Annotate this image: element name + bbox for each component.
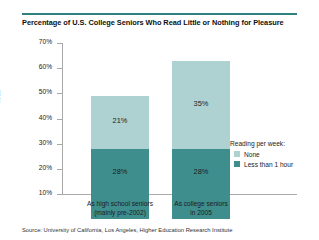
- y-tick-mark: [57, 43, 62, 44]
- source-note: Source: University of California, Los An…: [22, 227, 232, 233]
- legend-item-none[interactable]: None: [234, 151, 316, 158]
- bar-segment-none: 35%: [172, 61, 230, 149]
- legend-swatch-icon: [234, 151, 240, 157]
- legend: Reading per week: None Less than 1 hour: [230, 140, 316, 171]
- y-tick-mark: [57, 144, 62, 145]
- legend-item-label: Less than 1 hour: [244, 161, 293, 168]
- y-tick-label: 10%: [39, 189, 52, 196]
- bar-value-label: 28%: [91, 167, 149, 176]
- y-tick-mark: [57, 93, 62, 94]
- bar-value-label: 21%: [91, 116, 149, 125]
- bar-segment-none: 21%: [91, 96, 149, 149]
- bar-value-label: 28%: [172, 167, 230, 176]
- y-tick-mark: [57, 68, 62, 69]
- x-tick-line-2: in 2005: [151, 209, 251, 218]
- title-accent-rule: [22, 13, 297, 15]
- x-tick-line-1: As college seniors: [151, 200, 251, 209]
- bar-value-label: 35%: [172, 99, 230, 108]
- y-tick-label: 40%: [39, 114, 52, 121]
- y-axis-title: Total: [0, 90, 1, 104]
- bar-group-high-school: 21% 28%: [91, 96, 149, 194]
- y-tick-label: 30%: [39, 139, 52, 146]
- chart-figure: Percentage of U.S. College Seniors Who R…: [0, 0, 319, 240]
- y-tick-label: 50%: [39, 88, 52, 95]
- y-tick-label: 20%: [39, 164, 52, 171]
- y-tick-label: 60%: [39, 63, 52, 70]
- y-tick-mark: [57, 169, 62, 170]
- bar-group-college: 35% 28%: [172, 61, 230, 194]
- x-tick-label-college: As college seniors in 2005: [151, 200, 251, 217]
- legend-title: Reading per week:: [230, 140, 316, 147]
- y-tick-mark: [57, 119, 62, 120]
- legend-item-less-than-1-hour[interactable]: Less than 1 hour: [234, 161, 316, 168]
- y-tick-mark: [57, 194, 62, 195]
- legend-item-label: None: [244, 151, 260, 158]
- y-tick-label: 70%: [39, 38, 52, 45]
- y-axis-line: [62, 43, 63, 195]
- legend-swatch-icon: [234, 161, 240, 167]
- chart-title: Percentage of U.S. College Seniors Who R…: [22, 18, 302, 28]
